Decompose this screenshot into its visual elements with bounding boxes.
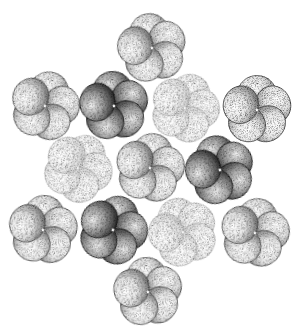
- sphere-cluster-diagram: [0, 0, 297, 333]
- cluster-center-pore: [256, 109, 259, 112]
- molecular-packing-figure: [0, 0, 297, 333]
